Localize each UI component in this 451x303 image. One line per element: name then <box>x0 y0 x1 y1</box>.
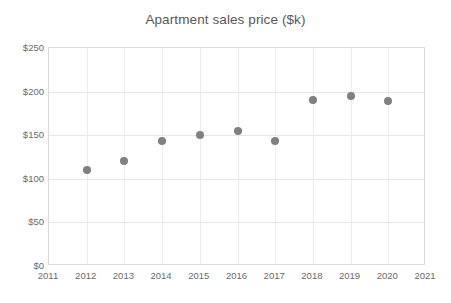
x-axis: 2011201220132014201520162017201820192020… <box>0 0 451 303</box>
x-axis-tick-label: 2021 <box>403 270 447 281</box>
chart-container: Apartment sales price ($k) $0$50$100$150… <box>0 0 451 303</box>
